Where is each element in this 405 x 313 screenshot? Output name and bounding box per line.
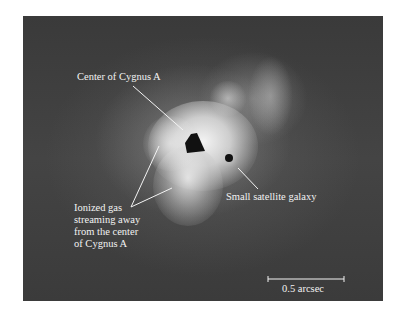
label-satellite-galaxy: Small satellite galaxy — [226, 191, 316, 203]
label-ionized-gas-line-4: of Cygnus A — [74, 238, 140, 250]
label-ionized-gas: Ionized gas streaming away from the cent… — [74, 202, 140, 250]
label-ionized-gas-line-2: streaming away — [74, 214, 140, 226]
annotation-lines — [0, 0, 405, 313]
label-center-of-cygnus-a: Center of Cygnus A — [77, 71, 161, 83]
gas-pointer-line-upper — [131, 146, 159, 207]
label-ionized-gas-line-3: from the center — [74, 226, 140, 238]
satellite-pointer-line — [238, 168, 258, 189]
label-ionized-gas-line-1: Ionized gas — [74, 202, 140, 214]
scale-bar-label: 0.5 arcsec — [282, 283, 324, 295]
center-pointer-line — [133, 86, 183, 130]
